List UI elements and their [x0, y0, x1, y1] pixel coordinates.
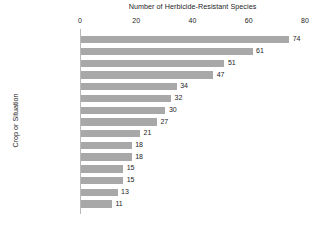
bar-row: Roadsides34	[81, 81, 306, 93]
x-axis-tick-label: 80	[301, 17, 309, 24]
bar	[81, 95, 171, 102]
bar	[81, 153, 132, 160]
plot-area: Wheat74Corn (maize)61Rice51Soybean47Road…	[80, 29, 306, 214]
bar-value-label: 18	[135, 141, 143, 148]
bar-row: Grapes11	[81, 198, 306, 210]
bar-chart: Number of Herbicide-Resistant Species 02…	[0, 0, 329, 225]
bar	[81, 189, 118, 196]
x-axis-tick-label: 60	[245, 17, 253, 24]
bar-value-label: 18	[135, 153, 143, 160]
x-axis-tick-label: 20	[132, 17, 140, 24]
bar-value-label: 47	[217, 71, 225, 78]
bar-row: Wheat74	[81, 34, 306, 46]
bar-value-label: 15	[127, 164, 135, 171]
bar	[81, 142, 132, 149]
bar-row: Orchards27	[81, 116, 306, 128]
bar-row: Rice51	[81, 57, 306, 69]
bar-row: Spring Barley30	[81, 104, 306, 116]
bar-value-label: 30	[169, 106, 177, 113]
bar	[81, 60, 224, 67]
bar	[81, 48, 253, 55]
bar-value-label: 27	[160, 118, 168, 125]
bar-row: Railways15	[81, 163, 306, 175]
bar	[81, 200, 112, 207]
bar-row: Vegetables15	[81, 175, 306, 187]
bar-row: Soybean47	[81, 69, 306, 81]
chart-title: Number of Herbicide-Resistant Species	[80, 2, 305, 11]
bar-row: Corn (maize)61	[81, 46, 306, 58]
bar-value-label: 51	[228, 59, 236, 66]
bar-row: Cotton18	[81, 140, 306, 152]
bar	[81, 118, 157, 125]
bar-row: Pastures18	[81, 151, 306, 163]
x-axis-tick-label: 0	[78, 17, 82, 24]
bar-row: Peas13	[81, 186, 306, 198]
bar-value-label: 11	[115, 200, 122, 207]
y-axis-title: Crop or Situation	[11, 61, 20, 181]
x-axis-tick-label: 40	[189, 17, 197, 24]
bar-row: Winter wheat32	[81, 93, 306, 105]
bar-value-label: 32	[175, 94, 183, 101]
bar-value-label: 15	[127, 176, 135, 183]
bar-value-label: 74	[293, 35, 301, 42]
bar	[81, 36, 289, 43]
bar	[81, 130, 140, 137]
bar	[81, 165, 123, 172]
bar	[81, 83, 177, 90]
bar-value-label: 34	[180, 82, 188, 89]
bar	[81, 71, 213, 78]
bar-row: Canola21	[81, 128, 306, 140]
bar	[81, 177, 123, 184]
bar-value-label: 21	[144, 129, 152, 136]
bar	[81, 107, 165, 114]
bar-value-label: 13	[121, 188, 129, 195]
bar-value-label: 61	[256, 47, 264, 54]
